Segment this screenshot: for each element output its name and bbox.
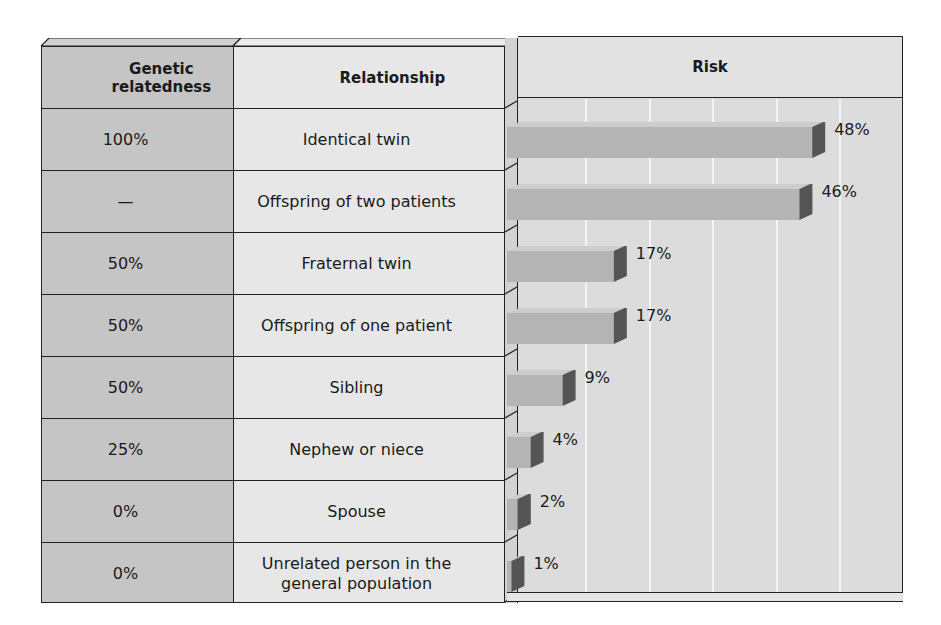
relationship-cell: Sibling — [209, 357, 504, 418]
risk-value-label: 2% — [540, 492, 565, 511]
table-row: 0%Spouse — [42, 481, 504, 543]
risk-value-label: 17% — [636, 306, 672, 325]
bar-shape — [507, 494, 538, 534]
gridline — [839, 99, 841, 593]
table-row: 100%Identical twin — [42, 109, 504, 171]
relationship-cell: Offspring of two patients — [209, 171, 504, 232]
bar-shape — [507, 556, 531, 596]
relationship-cell: Unrelated person in the general populati… — [209, 543, 504, 605]
header-relationship: Relationship — [281, 47, 504, 108]
table-row: 50%Sibling — [42, 357, 504, 419]
relatedness-cell: 100% — [42, 109, 209, 170]
risk-value-label: 4% — [553, 430, 578, 449]
bar-shape — [507, 308, 634, 348]
relatedness-cell: 0% — [42, 481, 209, 542]
gridline — [776, 99, 778, 593]
risk-value-label: 48% — [834, 120, 870, 139]
risk-value-label: 46% — [821, 182, 857, 201]
table-header-row: Genetic relatednessRelationship — [42, 47, 504, 109]
gridline — [712, 99, 714, 593]
relationship-cell: Identical twin — [209, 109, 504, 170]
risk-value-label: 17% — [636, 244, 672, 263]
gridline — [649, 99, 651, 593]
header-genetic-relatedness: Genetic relatedness — [42, 47, 281, 108]
bar-shape — [507, 122, 832, 162]
relatedness-cell: 50% — [42, 295, 209, 356]
risk-value-label: 9% — [585, 368, 610, 387]
table-row: 50%Fraternal twin — [42, 233, 504, 295]
relatedness-cell: 50% — [42, 357, 209, 418]
relatedness-cell: 50% — [42, 233, 209, 294]
relatedness-table: Genetic relatednessRelationship100%Ident… — [41, 46, 505, 603]
table-row: —Offspring of two patients — [42, 171, 504, 233]
relationship-cell: Offspring of one patient — [209, 295, 504, 356]
bar-shape — [507, 370, 583, 410]
table-row: 50%Offspring of one patient — [42, 295, 504, 357]
risk-header: Risk — [518, 37, 902, 98]
relationship-cell: Spouse — [209, 481, 504, 542]
bar-shape — [507, 432, 551, 472]
chart-floor — [507, 592, 903, 602]
relatedness-cell: 0% — [42, 543, 209, 605]
relatedness-cell: — — [42, 171, 209, 232]
relatedness-cell: 25% — [42, 419, 209, 480]
table-row: 0%Unrelated person in the general popula… — [42, 543, 504, 605]
bar-shape — [507, 184, 819, 224]
relationship-cell: Nephew or niece — [209, 419, 504, 480]
risk-value-label: 1% — [533, 554, 558, 573]
table-row: 25%Nephew or niece — [42, 419, 504, 481]
bar-shape — [507, 246, 634, 286]
relationship-cell: Fraternal twin — [209, 233, 504, 294]
